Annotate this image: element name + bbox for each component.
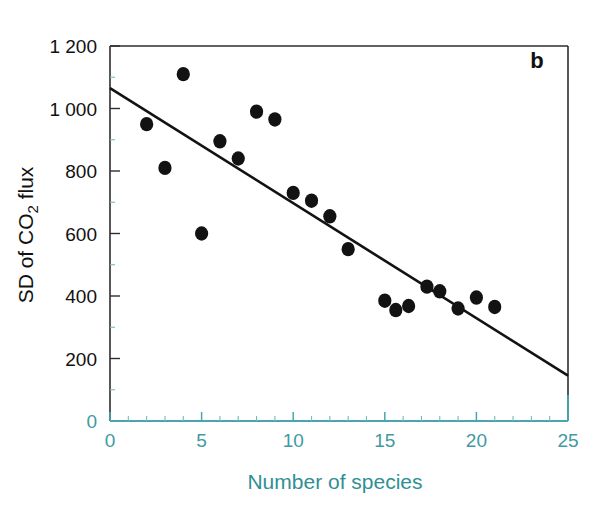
figure-panel-b: 051015202502004006008001 0001 200Number …: [0, 0, 601, 507]
data-point: [323, 209, 336, 223]
data-point: [470, 290, 483, 304]
panel-label: b: [530, 48, 543, 73]
data-point: [268, 112, 281, 126]
y-tick-label: 200: [65, 349, 97, 370]
data-point: [177, 67, 190, 81]
x-tick-label: 10: [283, 430, 304, 451]
data-point: [232, 151, 245, 165]
x-tick-label: 25: [557, 430, 578, 451]
data-point: [378, 293, 391, 307]
y-axis-title: SD of CO2 flux: [14, 166, 41, 303]
data-point: [420, 279, 433, 293]
data-point: [342, 242, 355, 256]
y-tick-label: 600: [65, 224, 97, 245]
x-tick-label: 5: [196, 430, 207, 451]
data-point: [140, 117, 153, 131]
x-tick-label: 20: [466, 430, 487, 451]
y-tick-label: 1 200: [49, 36, 97, 57]
data-point: [488, 300, 501, 314]
data-point: [451, 301, 464, 315]
y-axis-title-subscript: 2: [24, 205, 41, 213]
data-point: [158, 161, 171, 175]
x-tick-label: 0: [105, 430, 116, 451]
x-tick-label: 15: [374, 430, 395, 451]
data-point: [305, 193, 318, 207]
data-point: [250, 104, 263, 118]
y-axis-title-tail: flux: [14, 166, 37, 205]
x-axis-title: Number of species: [247, 470, 422, 493]
data-point: [389, 303, 402, 317]
trend-line: [110, 88, 568, 376]
y-tick-label: 400: [65, 286, 97, 307]
y-tick-label: 1 000: [49, 99, 97, 120]
y-tick-label: 800: [65, 161, 97, 182]
data-point: [402, 299, 415, 313]
scatter-plot: 051015202502004006008001 0001 200Number …: [0, 0, 601, 507]
data-point: [433, 284, 446, 298]
data-point: [195, 226, 208, 240]
data-point: [287, 186, 300, 200]
y-tick-label: 0: [86, 411, 97, 432]
y-axis-title-main: SD of CO: [14, 214, 37, 304]
data-point: [213, 134, 226, 148]
